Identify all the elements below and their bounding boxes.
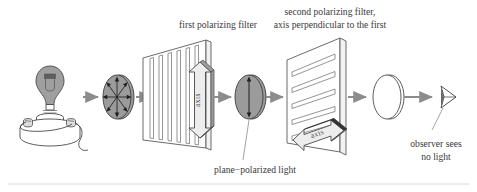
observer-label-line2: no light [421, 151, 451, 162]
observer-label-line1: observer sees [410, 138, 462, 149]
unpolarized-light-ellipse [103, 75, 134, 119]
second-filter-label-line2: axis perpendicular to the first [274, 19, 387, 30]
filter1-edge [206, 40, 211, 150]
second-polarizing-filter: axis [287, 38, 347, 155]
second-filter-label-line1: second polarizing filter, [285, 6, 376, 17]
light-bulb [20, 66, 88, 150]
filter1-axis-label: axis [193, 93, 202, 107]
terminal-right [67, 119, 76, 127]
no-light-ellipse [373, 75, 404, 119]
observer-leader [432, 108, 443, 130]
observer-eye [441, 86, 456, 108]
bulb-neck [46, 105, 54, 111]
first-polarizing-filter: axis [143, 40, 214, 150]
polarization-diagram: first polarizing filter second polarizin… [0, 0, 477, 192]
filter2-edge [340, 38, 346, 155]
bulb-glass [36, 66, 64, 105]
plane-polarized-label: plane−polarized light [214, 164, 296, 175]
plane-polarized-leader [243, 120, 249, 160]
plane-polarized-light-ellipse [235, 75, 266, 119]
filament-support [45, 74, 56, 79]
first-filter-label: first polarizing filter [179, 19, 258, 30]
